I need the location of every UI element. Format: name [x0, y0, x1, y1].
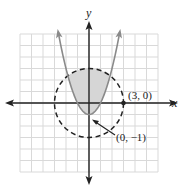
x-axis-label: x [171, 96, 178, 110]
y-axis-label: y [85, 6, 92, 20]
point-0-neg1-label: (0, −1) [116, 131, 146, 144]
point-3-0 [121, 101, 126, 106]
coordinate-graph: x y (3, 0) (0, −1) [0, 0, 184, 192]
point-3-0-label: (3, 0) [128, 89, 152, 102]
